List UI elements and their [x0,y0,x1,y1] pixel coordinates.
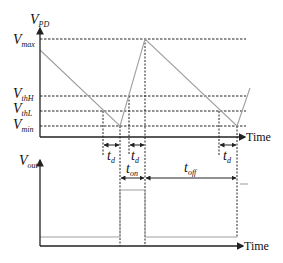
timing-diagram: VPD Time Vmax VthH VthL Vmin td td td [0,0,283,263]
vmin-label: Vmin [13,117,34,134]
vertical-markers [103,39,237,246]
td-label-3: td [223,148,232,165]
vout-waveform [40,190,237,237]
vthl-label: VthL [13,101,33,118]
toff-label: toff [184,160,198,177]
bottom-plot: ton toff Vout Time [19,153,269,253]
top-time-label: Time [246,130,271,144]
vout-axis-label: Vout [19,153,39,170]
vmax-label: Vmax [13,32,35,49]
vpd-axis-label: VPD [30,12,49,29]
top-plot: VPD Time Vmax VthH VthL Vmin td td td [13,12,271,246]
td-label-2: td [131,148,140,165]
td-label-1: td [107,148,116,165]
bottom-time-label: Time [244,239,269,253]
level-lines [40,39,246,126]
